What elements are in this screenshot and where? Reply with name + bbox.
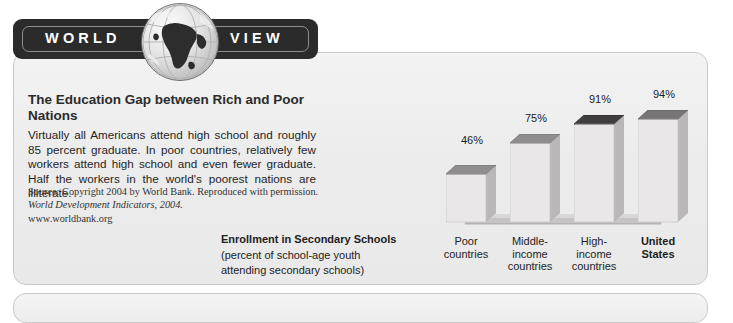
bar-label-2-line-2: countries [563, 260, 625, 273]
bar-value-3: 94% [636, 88, 692, 100]
bar-label-3-line-0: United [627, 235, 689, 248]
bar-label-1-line-2: countries [499, 260, 561, 273]
chart-caption-title: Enrollment in Secondary Schools [221, 232, 436, 248]
bar-label-0: Poor countries [435, 235, 497, 260]
chart-caption: Enrollment in Secondary Schools (percent… [221, 232, 436, 279]
bar-label-0-line-1: countries [435, 248, 497, 261]
bar-0 [446, 165, 486, 222]
bar-label-0-line-0: Poor [435, 235, 497, 248]
bar-label-1: Middle- income countries [499, 235, 561, 273]
chart-caption-sub-2: attending secondary schools) [221, 263, 436, 279]
source-credit: Source: Copyright 2004 by World Bank. Re… [28, 185, 328, 225]
bar-label-2-line-1: income [563, 248, 625, 261]
source-line-2: World Development Indicators, 2004. [28, 198, 328, 211]
enrollment-bar-chart: 46% 75% 91% 94% [432, 88, 700, 276]
bar-value-2: 91% [572, 93, 628, 105]
chart-caption-sub-1: (percent of school-age youth [221, 248, 436, 264]
banner-word-view: VIEW [230, 30, 284, 46]
bar-label-3: United States [627, 235, 689, 260]
banner-word-world: WORLD [45, 30, 121, 46]
bar-label-3-line-1: States [627, 248, 689, 261]
bar-3 [638, 110, 678, 222]
bar-value-0: 46% [444, 134, 500, 146]
bar-label-2: High- income countries [563, 235, 625, 273]
bar-value-1: 75% [508, 112, 564, 124]
source-line-3: www.worldbank.org [28, 212, 328, 225]
globe-africa-icon [141, 3, 219, 81]
source-line-1: Source: Copyright 2004 by World Bank. Re… [28, 185, 328, 198]
bar-2 [574, 115, 614, 222]
bar-label-1-line-0: Middle- [499, 235, 561, 248]
bar-1 [510, 134, 550, 222]
bar-label-1-line-1: income [499, 248, 561, 261]
bar-label-2-line-0: High- [563, 235, 625, 248]
next-panel-top-edge [13, 293, 708, 323]
page-title: The Education Gap between Rich and Poor … [28, 92, 318, 124]
